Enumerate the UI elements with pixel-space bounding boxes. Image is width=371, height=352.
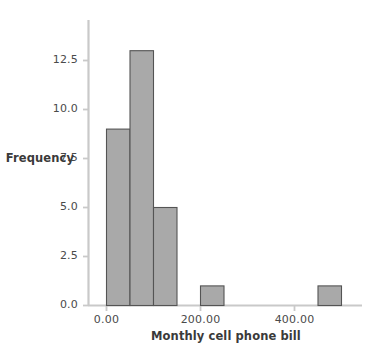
histogram-bar: [201, 286, 225, 306]
histogram-figure: 12.5 10.0 7.5 5.0 2.5 0.0 0.00 200.00 40…: [0, 0, 371, 352]
x-tick-label: 200.00: [170, 313, 231, 326]
y-tick-label: 12.5: [44, 53, 78, 66]
y-tick-label: 0.0: [44, 298, 78, 311]
y-tick-label: 5.0: [44, 200, 78, 213]
histogram-bar: [107, 129, 131, 305]
y-tick-label: 10.0: [44, 102, 78, 115]
histogram-bars: [107, 51, 342, 306]
x-tick-label: 400.00: [264, 313, 325, 326]
y-axis-title: Frequency: [0, 151, 74, 165]
x-tick-label: 0.00: [76, 313, 137, 326]
histogram-bar: [318, 286, 342, 306]
histogram-bar: [130, 51, 154, 306]
x-axis-title: Monthly cell phone bill: [90, 329, 362, 343]
y-tick-label: 2.5: [44, 249, 78, 262]
histogram-bar: [154, 208, 178, 306]
